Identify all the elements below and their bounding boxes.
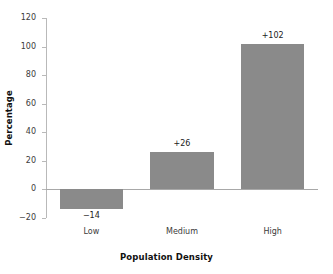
y-axis-tick-label: 60: [26, 100, 36, 108]
y-axis-tick-label: 80: [26, 71, 36, 79]
x-axis-tick-label: Medium: [150, 228, 213, 236]
x-axis-tick-label: Low: [60, 228, 123, 236]
y-axis-tick: 100: [42, 47, 46, 48]
bar[interactable]: [60, 189, 123, 209]
bar-value-label: +102: [241, 32, 304, 40]
y-axis-tick: −20: [42, 218, 46, 219]
bar-value-label: +26: [150, 140, 213, 148]
y-axis-title: Percentage: [0, 0, 18, 236]
y-axis-tick-label: −20: [19, 214, 36, 222]
y-axis-tick-label: 120: [21, 14, 36, 22]
y-axis-line: [46, 18, 47, 218]
y-axis-tick: 20: [42, 161, 46, 162]
y-axis-tick-label: 40: [26, 128, 36, 136]
y-axis-tick-label: 0: [31, 185, 36, 193]
bar-chart: Percentage −20020406080100120 −14+26+102…: [0, 0, 333, 274]
y-axis-tick: 80: [42, 75, 46, 76]
x-axis-title: Population Density: [0, 252, 333, 262]
bar[interactable]: [150, 152, 213, 189]
x-axis-tick-label: High: [241, 228, 304, 236]
y-axis-tick: 60: [42, 104, 46, 105]
y-axis-title-text: Percentage: [4, 90, 14, 146]
y-axis-tick-label: 20: [26, 157, 36, 165]
bar-value-label: −14: [60, 212, 123, 220]
plot-area: −20020406080100120 −14+26+102: [46, 18, 318, 218]
bar[interactable]: [241, 44, 304, 190]
y-axis-tick: 40: [42, 132, 46, 133]
y-axis-tick: 120: [42, 18, 46, 19]
y-axis-tick-label: 100: [21, 43, 36, 51]
